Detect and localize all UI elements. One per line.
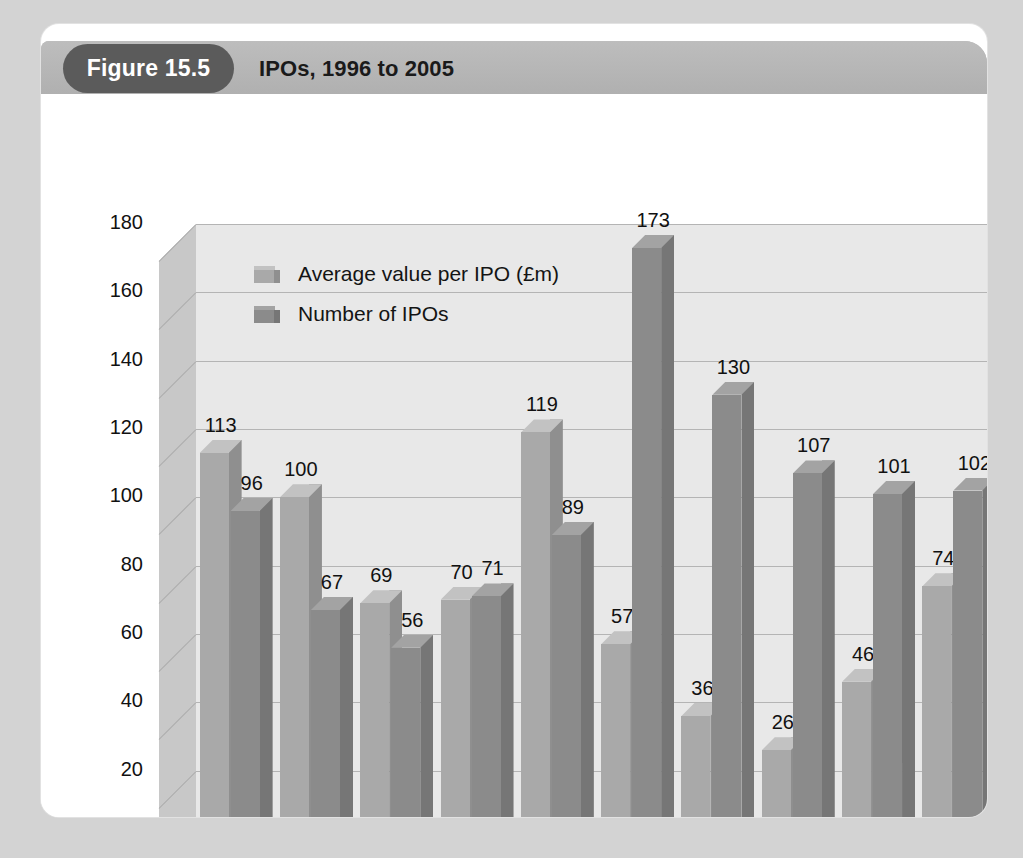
figure-number-pill: Figure 15.5 [63,44,234,93]
bar-front-face [681,716,710,817]
bar-value-label: 130 [704,356,762,379]
legend-label: Number of IPOs [298,302,449,326]
bar[interactable] [200,453,229,817]
y-axis-tick: 160 [87,279,143,302]
bar[interactable] [793,473,822,817]
bar-side-face [420,635,433,817]
bar[interactable] [601,644,630,817]
gridline [196,361,987,362]
chart-legend: Average value per IPO (£m)Number of IPOs [254,254,559,334]
bar[interactable] [762,750,791,817]
bar-value-label: 101 [865,455,923,478]
bar[interactable] [681,716,710,817]
legend-swatch-icon [254,306,280,323]
bar[interactable] [922,586,951,817]
y-axis-tick-labels: 020406080100120140160180 [81,94,143,817]
bar[interactable] [552,535,581,817]
bar-front-face [842,682,871,817]
bar-side-face [822,460,835,817]
bar[interactable] [280,497,309,817]
bar-value-label: 119 [513,393,571,416]
bar-value-label: 100 [272,458,330,481]
bar[interactable] [632,248,661,817]
bar-value-label: 71 [464,557,522,580]
bar-front-face [793,473,822,817]
bar-side-face [581,522,594,817]
bar[interactable] [953,491,982,818]
bar-front-face [231,511,260,817]
y-axis-tick: 40 [87,689,143,712]
bar[interactable] [441,600,470,817]
bar-front-face [521,432,550,817]
legend-swatch-front [254,270,275,283]
y-axis-tick: 140 [87,348,143,371]
bar[interactable] [391,648,420,817]
bar[interactable] [311,610,340,817]
bar-value-label: 56 [383,609,441,632]
legend-swatch-icon [254,266,280,283]
bar-value-label: 173 [624,209,682,232]
bar-front-face [712,395,741,817]
bar-side-face [741,382,754,817]
bar-front-face [441,600,470,817]
legend-swatch-side [274,270,280,283]
bar-value-label: 102 [945,452,987,475]
y-axis-tick: 100 [87,484,143,507]
legend-item[interactable]: Average value per IPO (£m) [254,254,559,294]
y-axis-tick: 80 [87,553,143,576]
legend-swatch-front [254,310,275,323]
y-axis-tick: 120 [87,416,143,439]
bar-front-face [360,603,389,817]
bar-value-label: 89 [544,496,602,519]
bar-value-label: 113 [192,414,250,437]
bar[interactable] [360,603,389,817]
bar[interactable] [231,511,260,817]
figure-number-label: Figure 15.5 [87,55,211,82]
legend-item[interactable]: Number of IPOs [254,294,559,334]
y-axis-tick: 180 [87,211,143,234]
bar-side-face [260,498,273,817]
bar-value-label: 107 [785,434,843,457]
gridline [196,224,987,225]
bar[interactable] [521,432,550,817]
bar-front-face [472,596,501,817]
page-background: Figure 15.5 IPOs, 1996 to 2005 020406080… [0,0,1023,858]
bar-front-face [552,535,581,817]
y-axis-tick: 60 [87,621,143,644]
legend-swatch-side [274,310,280,323]
bar[interactable] [472,596,501,817]
bar[interactable] [873,494,902,817]
chart-plot-region: 020406080100120140160180 113961006769567… [41,94,987,817]
bar-front-face [762,750,791,817]
bar[interactable] [842,682,871,817]
bar-side-face [501,583,514,817]
bar-side-face [982,478,987,818]
bar-front-face [311,610,340,817]
bar-side-face [902,481,915,817]
bar-front-face [632,248,661,817]
bar-front-face [601,644,630,817]
bar-front-face [391,648,420,817]
bar-value-label: 69 [352,564,410,587]
bar[interactable] [712,395,741,817]
bar-front-face [953,491,982,818]
bar-front-face [873,494,902,817]
bar-side-face [661,235,674,817]
legend-label: Average value per IPO (£m) [298,262,559,286]
bar-front-face [922,586,951,817]
y-axis-tick: 20 [87,758,143,781]
figure-title: IPOs, 1996 to 2005 [259,56,454,82]
bar-front-face [280,497,309,817]
gridline [196,429,987,430]
bar-front-face [200,453,229,817]
bar-side-face [340,597,353,817]
